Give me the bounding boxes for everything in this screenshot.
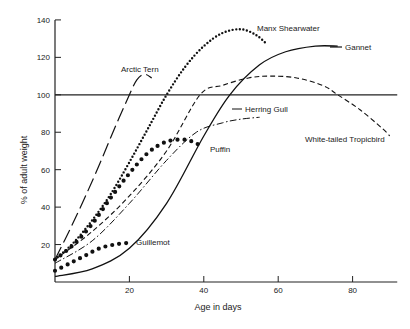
- y-tick-label: 20: [41, 241, 50, 250]
- y-tick-label: 40: [41, 203, 50, 212]
- y-tick-label: 140: [37, 16, 51, 25]
- label-puffin: Puffin: [210, 145, 230, 154]
- x-tick-label: 80: [348, 286, 357, 295]
- axes: 2040608010012014020406080: [37, 16, 398, 295]
- x-tick-label: 40: [199, 286, 208, 295]
- growth-chart: 2040608010012014020406080 Arctic TernMan…: [0, 0, 410, 329]
- y-axis-label: % of adult weight: [19, 135, 29, 204]
- label-manx-shearwater: Manx Shearwater: [257, 24, 320, 33]
- y-tick-label: 60: [41, 166, 50, 175]
- series-white-tailed-tropicbird: [55, 76, 390, 259]
- series-puffin: [55, 140, 204, 260]
- label-white-tailed-tropicbird: White-tailed Tropicbird: [305, 135, 385, 144]
- series-gannet: [55, 46, 338, 277]
- y-tick-label: 120: [37, 53, 51, 62]
- series-labels: Arctic TernManx ShearwaterGannetWhite-ta…: [121, 24, 385, 247]
- y-tick-label: 100: [37, 91, 51, 100]
- x-tick-label: 60: [274, 286, 283, 295]
- label-herring-gull: Herring Gull: [245, 105, 288, 114]
- label-arctic-tern: Arctic Tern: [121, 65, 159, 74]
- y-tick-label: 80: [41, 128, 50, 137]
- series-manx-shearwater: [55, 29, 267, 259]
- x-tick-label: 20: [125, 286, 134, 295]
- label-guillemot: Guillemot: [136, 238, 171, 247]
- series-arctic-tern: [55, 74, 152, 259]
- x-axis-label: Age in days: [194, 302, 242, 312]
- label-gannet: Gannet: [345, 43, 372, 52]
